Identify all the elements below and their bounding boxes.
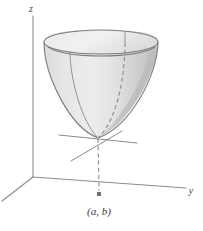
point-marker-ab [97,192,101,196]
y-axis-label: y [188,185,194,196]
point-label-ab: (a, b) [87,205,111,218]
drop-line-group [97,139,101,196]
x-axis [2,177,33,201]
paraboloid-surface [44,30,160,145]
y-axis [33,177,186,188]
paraboloid-figure: z y (a, b) [0,0,203,231]
bowl-rim-ellipse [44,30,158,54]
vertical-drop-line [98,139,99,191]
figure-canvas: z y (a, b) [0,0,203,231]
z-axis-label: z [28,3,33,14]
